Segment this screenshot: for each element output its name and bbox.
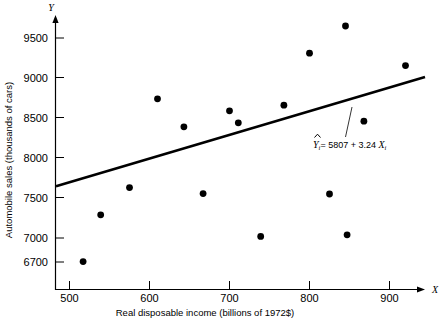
equation-x-subscript: i xyxy=(385,144,387,151)
y-tick-label: 7000 xyxy=(24,232,48,244)
y-axis-title: Automobile sales (thousands of cars) xyxy=(3,82,14,238)
regression-equation: Yi= 5807 + 3.24 Xi xyxy=(313,139,387,151)
data-point xyxy=(361,118,368,125)
data-point xyxy=(326,191,333,198)
x-axis-symbol: X xyxy=(431,284,439,295)
data-point xyxy=(281,102,288,109)
data-point xyxy=(342,23,349,30)
x-tick-label: 900 xyxy=(380,292,398,304)
y-tick-label: 8000 xyxy=(24,152,48,164)
data-point xyxy=(154,95,161,102)
regression-equation-annotation: Yi= 5807 + 3.24 Xi xyxy=(313,134,387,151)
y-tick-label: 8500 xyxy=(24,112,48,124)
x-tick-label: 800 xyxy=(300,292,318,304)
data-point xyxy=(235,119,242,126)
data-point xyxy=(181,123,188,130)
x-axis-title: Real disposable income (billions of 1972… xyxy=(116,307,295,318)
x-axis xyxy=(56,286,426,292)
data-point xyxy=(226,107,233,114)
y-axis-symbol: Y xyxy=(48,2,55,13)
x-tick-labels: 500 600 700 800 900 xyxy=(60,292,398,304)
y-axis-arrow xyxy=(52,15,58,23)
data-point xyxy=(402,62,409,69)
equation-body: = 5807 + 3.24 xyxy=(320,140,376,150)
y-tick-label: 7500 xyxy=(24,192,48,204)
equation-leader-line xyxy=(346,107,353,137)
data-point xyxy=(257,233,264,240)
y-tick-label: 9000 xyxy=(24,72,48,84)
x-ticks xyxy=(70,281,390,290)
regression-line xyxy=(56,77,425,186)
x-tick-label: 600 xyxy=(140,292,158,304)
x-tick-label: 500 xyxy=(60,292,78,304)
data-point xyxy=(306,50,313,57)
data-point xyxy=(80,258,87,265)
data-point xyxy=(126,184,133,191)
y-tick-label: 6700 xyxy=(24,256,48,268)
x-axis-arrow xyxy=(417,286,425,292)
data-point xyxy=(97,211,104,218)
y-tick-labels: 9500 9000 8500 8000 7500 7000 6700 xyxy=(24,32,48,268)
y-hat-icon xyxy=(315,134,321,137)
y-tick-label: 9500 xyxy=(24,32,48,44)
scatter-chart: 9500 9000 8500 8000 7500 7000 6700 500 6… xyxy=(0,0,446,324)
y-axis xyxy=(52,15,58,290)
chart-svg: 9500 9000 8500 8000 7500 7000 6700 500 6… xyxy=(0,0,446,324)
data-point xyxy=(344,231,351,238)
data-point xyxy=(200,190,207,197)
y-ticks xyxy=(56,38,65,262)
x-tick-label: 700 xyxy=(220,292,238,304)
